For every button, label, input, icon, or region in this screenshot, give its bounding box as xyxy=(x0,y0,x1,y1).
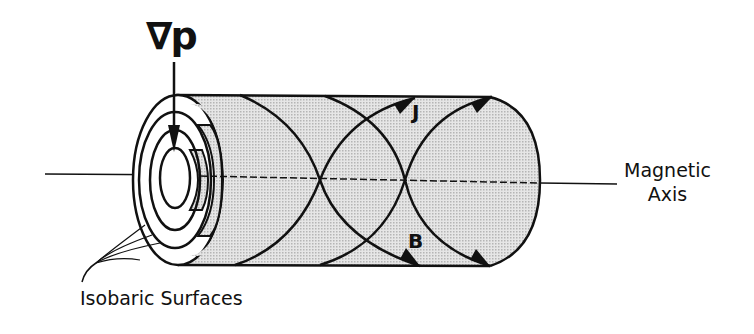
isobaric-ring-3 xyxy=(160,148,190,208)
isobaric-leader-tail xyxy=(82,263,96,282)
cylinder-bottom-edge xyxy=(178,265,490,266)
pressure-gradient-label: ∇p xyxy=(146,14,196,58)
isobaric-surfaces-label: Isobaric Surfaces xyxy=(80,287,243,309)
current-density-label: J xyxy=(412,100,419,124)
magnetic-axis-label: Magnetic Axis xyxy=(624,158,711,206)
magnetic-axis-line-right xyxy=(540,183,617,184)
magnetic-field-label: B xyxy=(408,229,423,253)
magnetic-axis-label-line1: Magnetic xyxy=(624,158,711,182)
magnetic-axis-label-line2: Axis xyxy=(624,182,711,206)
